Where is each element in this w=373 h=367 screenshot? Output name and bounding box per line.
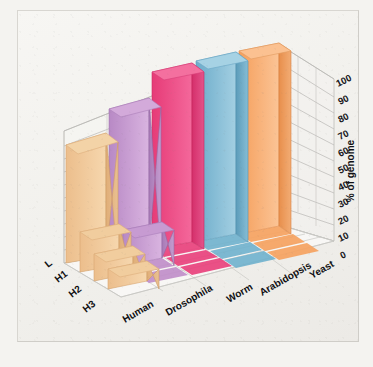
figure-root: 100 90 80 70 60 50 40 30 20 10 0 % of ge… [0, 0, 373, 367]
y-tick-90: 90 [336, 92, 350, 107]
species-label-human: Human [121, 298, 156, 324]
three-d-bar-chart: 100 90 80 70 60 50 40 30 20 10 0 % of ge… [18, 11, 358, 341]
y-tick-100: 100 [334, 72, 353, 89]
species-label-worm: Worm [225, 281, 255, 305]
y-tick-20: 20 [336, 212, 350, 227]
y-tick-80: 80 [336, 110, 350, 125]
species-label-yeast: Yeast [308, 258, 337, 281]
iso-label-H1: H1 [52, 268, 69, 285]
y-tick-70: 70 [336, 127, 350, 142]
species-label-arabidopsis: Arabidopsis [258, 259, 314, 298]
species-label-drosophila: Drosophila [164, 282, 215, 318]
y-tick-10: 10 [336, 229, 350, 244]
y-tick-0: 0 [338, 249, 348, 261]
iso-label-H2: H2 [66, 283, 83, 300]
iso-label-L: L [42, 257, 54, 269]
chart-plate: 100 90 80 70 60 50 40 30 20 10 0 % of ge… [17, 10, 359, 342]
iso-label-H3: H3 [80, 298, 97, 315]
y-axis-title: % of genome [345, 139, 356, 202]
